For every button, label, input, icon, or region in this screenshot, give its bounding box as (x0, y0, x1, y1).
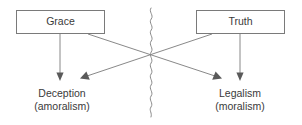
wavy-divider-icon (150, 8, 152, 117)
arrowhead-truth-to-legalism (236, 73, 243, 82)
outcome-label-deception: Deception (38, 87, 85, 99)
outcome-sublabel-legalism: (moralism) (215, 100, 265, 112)
node-label-grace: Grace (46, 15, 75, 27)
node-label-truth: Truth (228, 15, 252, 27)
diagram-canvas: Grace Truth Deception (amoralism) Legali… (0, 0, 302, 125)
grace-truth-diagram: Grace Truth Deception (amoralism) Legali… (0, 0, 302, 125)
outcome-sublabel-deception: (amoralism) (34, 100, 89, 112)
outcome-label-legalism: Legalism (219, 87, 261, 99)
arrowhead-grace-to-deception (56, 73, 63, 82)
